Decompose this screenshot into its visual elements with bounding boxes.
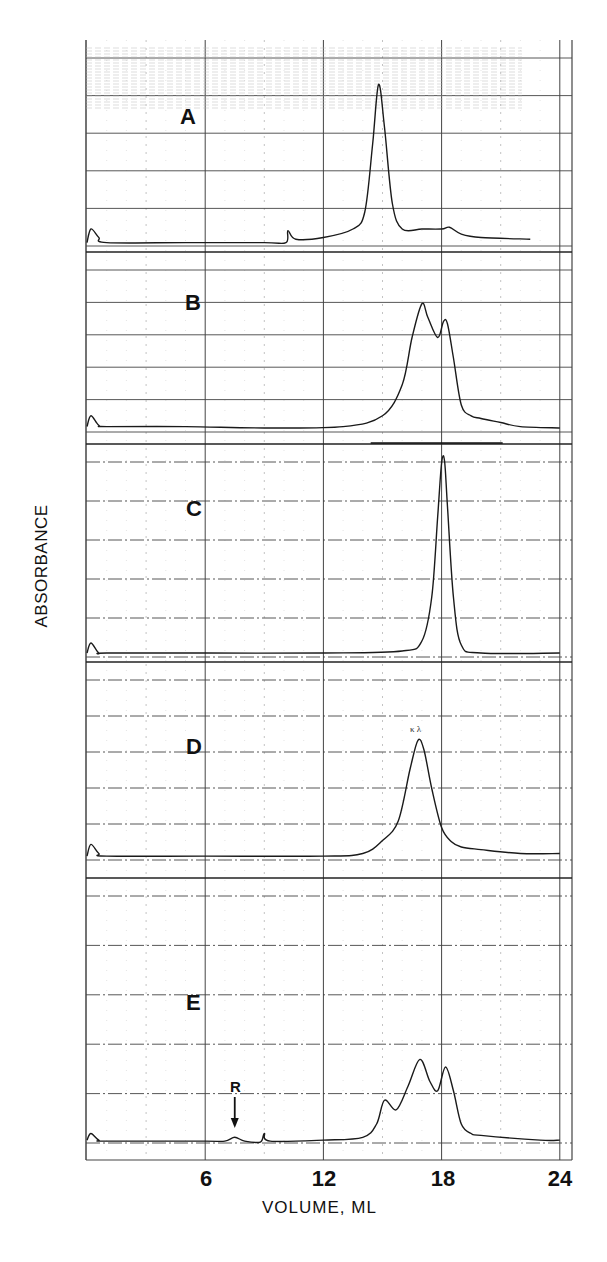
- marker-r-label: R: [230, 1078, 241, 1095]
- panel-label-d: D: [186, 734, 202, 760]
- arrow-down-icon: [231, 1118, 239, 1128]
- panel-label-a: A: [180, 104, 196, 130]
- x-tick-24: 24: [548, 1166, 572, 1192]
- x-tick-18: 18: [431, 1166, 455, 1192]
- x-axis-title: VOLUME, ML: [262, 1198, 377, 1218]
- panel-label-c: C: [186, 496, 202, 522]
- x-tick-6: 6: [200, 1166, 212, 1192]
- x-tick-12: 12: [312, 1166, 336, 1192]
- panel-label-b: B: [185, 290, 201, 316]
- y-axis-title: ABSORBANCE: [32, 504, 52, 627]
- panel-label-e: E: [186, 990, 201, 1016]
- panel-d-peak-note: κ λ: [410, 724, 421, 734]
- chromatogram-chart: [0, 0, 607, 1262]
